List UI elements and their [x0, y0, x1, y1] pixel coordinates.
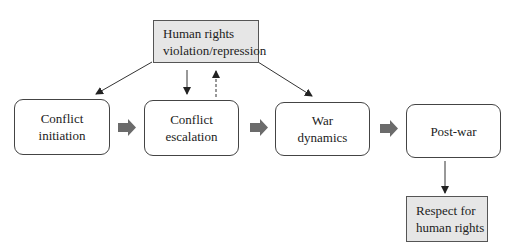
node-label: Respect for human rights — [416, 202, 484, 236]
arrow-violation-to-war-dynamics — [258, 62, 312, 96]
node-label: War dynamics — [298, 112, 348, 146]
node-war-dynamics: War dynamics — [275, 102, 370, 156]
node-label: Conflict escalation — [166, 111, 218, 145]
node-conflict-escalation: Conflict escalation — [144, 100, 239, 156]
node-human-rights-violation: Human rights violation/repression — [153, 20, 259, 63]
node-conflict-initiation: Conflict initiation — [14, 99, 110, 155]
node-post-war: Post-war — [406, 104, 501, 158]
node-label: Conflict initiation — [39, 110, 86, 144]
node-label: Post-war — [430, 123, 476, 140]
node-respect-for-human-rights: Respect for human rights — [406, 196, 488, 242]
block-arrow-icon — [118, 119, 136, 136]
block-arrow-icon — [380, 120, 398, 137]
arrow-violation-to-initiation — [96, 62, 152, 94]
node-label: Human rights violation/repression — [163, 25, 266, 59]
block-arrow-icon — [250, 119, 268, 136]
